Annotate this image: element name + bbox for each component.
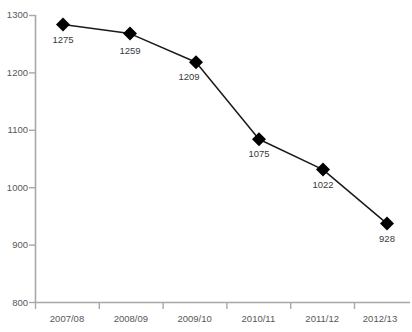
x-tick-label-2010-11: 2010/11 [227, 313, 289, 324]
data-point-label-2009-10: 1209 [169, 71, 209, 82]
y-axis-ticks [29, 16, 36, 303]
y-tick-label-1000: 1000 [0, 182, 28, 193]
x-tick-label-2009-10: 2009/10 [164, 313, 226, 324]
y-tick-label-900: 900 [0, 239, 28, 250]
line-chart: 1300 1200 1100 1000 900 800 2007/08 2008… [0, 0, 412, 332]
data-point-label-2008-09: 1259 [110, 45, 150, 56]
x-tick-label-2012-13: 2012/13 [349, 313, 411, 324]
data-markers [56, 17, 394, 230]
data-point-label-2007-08: 1275 [43, 34, 83, 45]
data-point-label-2010-11: 1075 [239, 148, 279, 159]
data-point-label-2011-12: 1022 [303, 179, 343, 190]
x-tick-label-2007-08: 2007/08 [36, 313, 98, 324]
y-tick-label-1100: 1100 [0, 124, 28, 135]
data-point-label-2012-13: 928 [367, 233, 407, 244]
chart-plot-area [0, 0, 412, 332]
x-tick-label-2011-12: 2011/12 [291, 313, 353, 324]
y-tick-label-1300: 1300 [0, 9, 28, 20]
x-tick-label-2008-09: 2008/09 [100, 313, 162, 324]
y-tick-label-1200: 1200 [0, 67, 28, 78]
data-point-marker [123, 27, 137, 41]
y-tick-label-800: 800 [0, 297, 28, 308]
data-point-marker [56, 17, 70, 31]
x-axis-ticks [36, 303, 355, 310]
